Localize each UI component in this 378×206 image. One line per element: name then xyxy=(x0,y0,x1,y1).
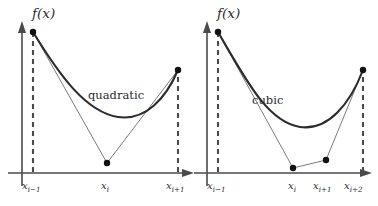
quadratic-fit-curve xyxy=(33,32,178,117)
chord-polyline-right xyxy=(218,32,363,168)
x-tick-label-xi-plus-2-right: xi+2 xyxy=(344,180,363,194)
cubic-fit-curve xyxy=(218,32,363,127)
x-tick-label-xi-minus-1-right: xi−1 xyxy=(207,180,226,194)
x-tick-label-xi-plus-1-right: xi+1 xyxy=(313,180,332,194)
data-point-xi-plus-1-right xyxy=(323,157,329,163)
data-point-xi-minus-1-left xyxy=(30,29,36,35)
x-tick-label-xi-right: xi xyxy=(288,180,296,194)
y-axis-right xyxy=(203,21,211,186)
svg-text:xi: xi xyxy=(101,180,109,194)
x-tick-label-xi-minus-1-left: xi−1 xyxy=(22,180,41,194)
data-point-xi-plus-2-right xyxy=(360,67,366,73)
x-axis-left xyxy=(8,169,194,177)
interpolation-figure: f(x) quadratic xi−1 xi xyxy=(0,0,378,206)
svg-text:xi+1: xi+1 xyxy=(166,180,185,194)
quadratic-curve-label: quadratic xyxy=(88,88,144,102)
svg-text:xi−1: xi−1 xyxy=(22,180,41,194)
data-point-xi-plus-1-left xyxy=(175,67,181,73)
svg-text:xi−1: xi−1 xyxy=(207,180,226,194)
y-axis-left xyxy=(18,21,26,186)
x-tick-label-xi-left: xi xyxy=(101,180,109,194)
cubic-curve-label: cubic xyxy=(252,93,283,107)
x-tick-label-xi-plus-1-left: xi+1 xyxy=(166,180,185,194)
data-point-xi-right xyxy=(290,165,296,171)
y-axis-label-left: f(x) xyxy=(31,5,55,21)
svg-text:xi+1: xi+1 xyxy=(313,180,332,194)
svg-text:xi: xi xyxy=(288,180,296,194)
x-axis-right xyxy=(194,169,372,177)
svg-text:xi+2: xi+2 xyxy=(344,180,363,194)
data-point-xi-left xyxy=(104,160,110,166)
y-axis-label-right: f(x) xyxy=(216,5,240,21)
cubic-interpolation-panel: f(x) cubic xi−1 xi xyxy=(194,5,372,194)
figure-canvas: f(x) quadratic xi−1 xi xyxy=(0,0,378,206)
data-point-xi-minus-1-right xyxy=(215,29,221,35)
quadratic-interpolation-panel: f(x) quadratic xi−1 xi xyxy=(8,5,194,194)
